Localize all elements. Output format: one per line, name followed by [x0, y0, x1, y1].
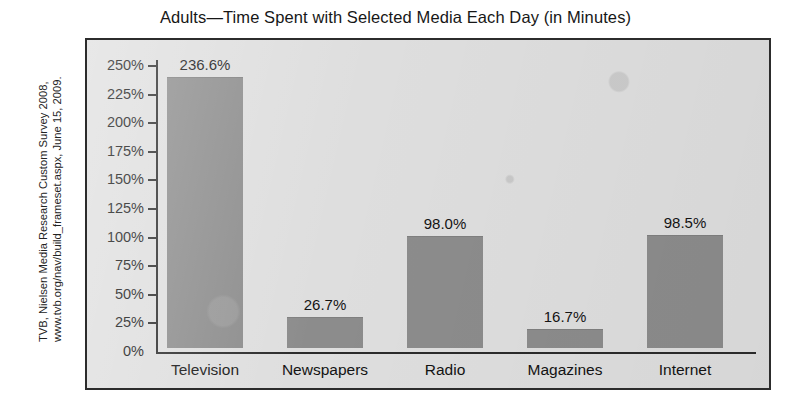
bar-value-label: 26.7%: [265, 297, 385, 313]
bar-value-label: 236.6%: [145, 57, 265, 73]
y-axis-tick-label: 250%: [86, 58, 144, 72]
y-axis-tick-labels: 250%225%200%175%150%125%100%75%50%25%0%: [87, 40, 144, 388]
y-axis-tick-mark: [148, 208, 156, 210]
source-line-1: TVB, Nielsen Media Research Custom Surve…: [36, 0, 50, 342]
bar-value-label: 98.0%: [385, 216, 505, 232]
y-axis-tick-label: 200%: [86, 115, 144, 129]
y-axis-tick-label: 50%: [86, 287, 144, 301]
y-axis-tick-label: 175%: [86, 144, 144, 158]
y-axis-tick-mark: [148, 237, 156, 239]
y-axis-line: [156, 60, 158, 354]
y-axis-tick-mark: [148, 179, 156, 181]
chart-title: Adults—Time Spent with Selected Media Ea…: [0, 8, 791, 27]
chart-plot-area: 250%225%200%175%150%125%100%75%50%25%0% …: [85, 38, 771, 390]
y-axis-tick-mark: [148, 294, 156, 296]
y-axis-tick-label: 75%: [86, 258, 144, 272]
bar[interactable]: [167, 77, 243, 348]
y-axis-tick-label: 100%: [86, 230, 144, 244]
category-label-newspapers: Newspapers: [255, 360, 395, 380]
bar[interactable]: [527, 329, 603, 348]
y-axis-tick-label: 0%: [86, 344, 144, 358]
bar[interactable]: [407, 236, 483, 348]
category-label-radio: Radio: [375, 360, 515, 380]
x-axis-line: [156, 352, 756, 354]
bar[interactable]: [287, 317, 363, 348]
y-axis-tick-label: 125%: [86, 201, 144, 215]
y-axis-tick-mark: [148, 151, 156, 153]
y-axis-tick-mark: [148, 94, 156, 96]
category-label-television: Television: [135, 360, 275, 380]
bar-value-label: 16.7%: [505, 309, 625, 325]
bar[interactable]: [647, 235, 723, 348]
source-line-2: www.tvb.org/nav/build_frameset.aspx, Jun…: [50, 0, 64, 342]
y-axis-tick-label: 225%: [86, 87, 144, 101]
category-label-magazines: Magazines: [495, 360, 635, 380]
source-credit: TVB, Nielsen Media Research Custom Surve…: [36, 0, 64, 342]
y-axis-tick-label: 25%: [86, 315, 144, 329]
category-label-internet: Internet: [615, 360, 755, 380]
y-axis-tick-label: 150%: [86, 172, 144, 186]
y-axis-tick-mark: [148, 122, 156, 124]
y-axis-tick-mark: [148, 265, 156, 267]
bar-value-label: 98.5%: [625, 215, 745, 231]
y-axis-tick-mark: [148, 322, 156, 324]
